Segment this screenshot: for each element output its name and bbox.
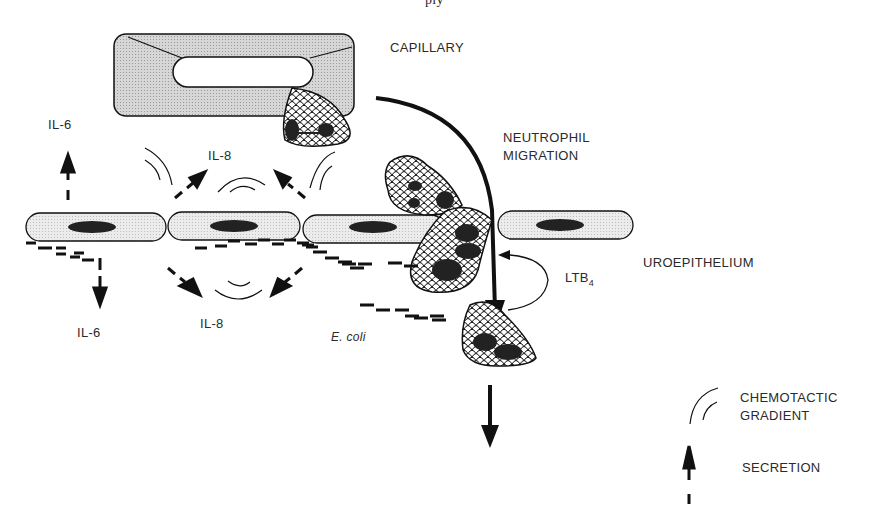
neutrophil-label-line1: NEUTROPHIL [503,130,590,145]
ltb4-label: LTB4 [565,270,594,291]
legend-chemotactic-line1: CHEMOTACTIC [740,390,838,405]
ecoli-label: E. coli [331,330,366,345]
ltb4-subscript: 4 [589,278,594,288]
capillary-label: CAPILLARY [390,40,464,55]
uroepithelium-cells [26,211,633,243]
neutrophil-exiting [462,302,536,366]
il6-bottom-label: IL-6 [77,325,101,340]
legend-secretion-icon [684,446,694,504]
legend-chemotactic-line2: GRADIENT [740,408,810,423]
il8-bottom-label: IL-8 [200,316,224,331]
uroepithelium-label: UROEPITHELIUM [643,255,754,270]
legend-chemotactic-icon [690,388,718,424]
title-fragment: ply [425,0,444,7]
ltb4-arrow [508,255,548,310]
il8-top-label: IL-8 [208,148,232,163]
neutrophil-label-line2: MIGRATION [503,148,578,163]
il6-top-label: IL-6 [48,117,72,132]
ecoli-bacteria [26,240,446,320]
legend-secretion-label: SECRETION [742,460,821,475]
ltb4-text: LTB [565,270,589,285]
